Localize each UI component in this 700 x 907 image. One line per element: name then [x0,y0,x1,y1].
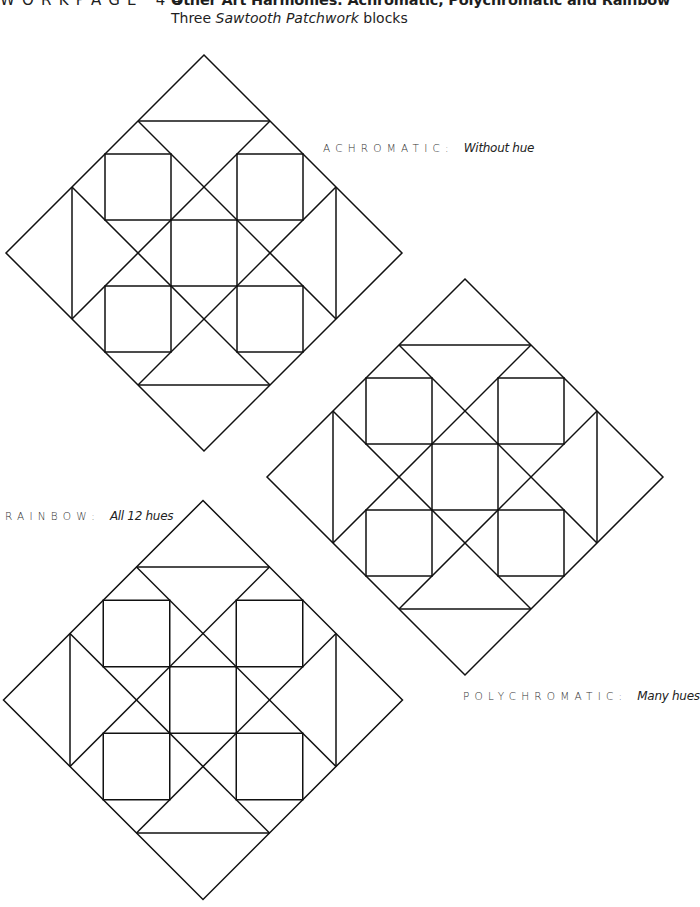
patch-square [170,667,237,734]
rainbow-label: RAINBOW:All 12 hues [5,509,173,524]
patch-square [236,600,303,667]
patch-square [103,600,170,667]
polychromatic-label: POLYCHROMATIC:Many hues [463,689,700,704]
rainbow-label-desc: All 12 hues [110,509,173,523]
patch-square [236,733,303,800]
achromatic-label: ACHROMATIC:Without hue [323,141,534,156]
patch-square [103,733,170,800]
rainbow-label-caps: RAINBOW: [5,510,100,522]
achromatic-label-desc: Without hue [464,141,534,155]
achromatic-label-caps: ACHROMATIC: [323,142,454,154]
block-outline [4,501,403,900]
polychromatic-label-desc: Many hues [637,689,699,703]
polychromatic-label-caps: POLYCHROMATIC: [463,690,627,702]
